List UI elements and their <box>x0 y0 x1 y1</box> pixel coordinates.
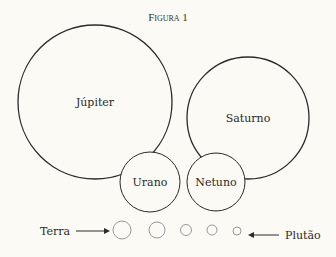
small-planet <box>181 225 192 236</box>
figure-title: Figura 1 <box>148 11 188 23</box>
small-planet <box>113 221 131 239</box>
planet-size-diagram: Figura 1 JúpiterSaturnoUranoNetuno Terra… <box>0 0 336 257</box>
planet-urano: Urano <box>120 152 180 212</box>
arrow-left-icon <box>248 232 279 238</box>
label-plutao: Plutão <box>285 229 321 242</box>
planet-netuno: Netuno <box>187 153 245 211</box>
small-planet <box>149 222 165 238</box>
arrow-right-icon <box>76 228 110 234</box>
planet-label: Saturno <box>226 112 271 125</box>
small-planet <box>207 225 217 235</box>
planet-label: Urano <box>133 176 168 189</box>
planet-label: Netuno <box>195 176 237 189</box>
label-terra: Terra <box>40 225 71 238</box>
small-planet <box>233 227 241 235</box>
planet-label: Júpiter <box>75 96 115 109</box>
